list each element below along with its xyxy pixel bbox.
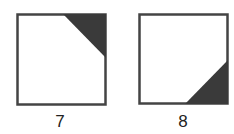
figures-canvas xyxy=(0,0,234,134)
figure-label-7: 7 xyxy=(45,112,75,132)
figure-8 xyxy=(140,15,229,105)
figure-label-8: 8 xyxy=(168,112,198,132)
figure-7 xyxy=(18,14,107,105)
